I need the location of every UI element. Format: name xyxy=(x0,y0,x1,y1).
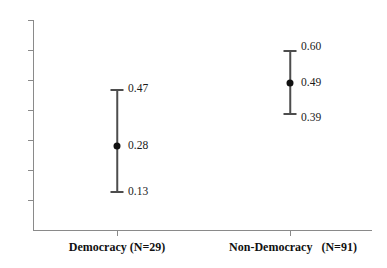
error-bar-chart: 0.7 0.6 0.5 0.4 0.3 0.2 0.1 0 Democracy … xyxy=(0,0,387,268)
error-bar-lower-cap xyxy=(284,113,297,115)
x-axis-label-non-democracy: Non-Democracy (N=91) xyxy=(229,241,357,254)
y-tick-mark xyxy=(28,110,33,111)
lower-bound-label: 0.39 xyxy=(301,112,321,124)
error-bar-upper-cap xyxy=(111,89,124,91)
error-bar-stem xyxy=(116,89,118,191)
point-value-label: 0.49 xyxy=(301,77,321,89)
x-axis-label-democracy: Democracy (N=29) xyxy=(69,241,165,254)
x-tick-mark-non-democracy xyxy=(290,231,291,236)
x-axis-line xyxy=(33,230,372,231)
lower-bound-label: 0.13 xyxy=(128,186,148,198)
upper-bound-label: 0.47 xyxy=(128,83,148,95)
y-axis-line xyxy=(33,20,34,231)
upper-bound-label: 0.60 xyxy=(301,41,321,53)
error-bar-lower-cap xyxy=(111,191,124,193)
data-point-marker xyxy=(287,80,294,87)
point-value-label: 0.28 xyxy=(128,140,148,152)
error-bar-upper-cap xyxy=(284,50,297,52)
y-tick-mark xyxy=(28,80,33,81)
y-tick-mark xyxy=(28,140,33,141)
x-tick-mark-democracy xyxy=(117,231,118,236)
y-tick-mark xyxy=(28,20,33,21)
y-tick-mark xyxy=(28,50,33,51)
y-tick-mark xyxy=(28,170,33,171)
data-point-marker xyxy=(114,143,121,150)
y-tick-mark xyxy=(28,200,33,201)
